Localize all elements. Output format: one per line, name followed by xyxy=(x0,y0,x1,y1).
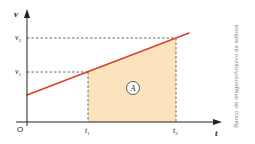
y-axis-arrow-icon xyxy=(24,9,30,18)
x-axis-label: t xyxy=(215,128,218,138)
tick-t1: t1 xyxy=(85,126,90,136)
y-axis-label: v xyxy=(14,9,19,19)
tick-v2: v2 xyxy=(15,33,22,43)
tick-v1: v1 xyxy=(15,67,22,77)
x-axis-arrow-icon xyxy=(213,119,222,125)
image-credit: Banco de imagens/Arquivo da editora xyxy=(233,24,239,128)
area-a-label: A xyxy=(130,84,136,93)
area-a-fill xyxy=(88,38,176,122)
tick-t2: t2 xyxy=(173,126,178,136)
origin-label: O xyxy=(17,125,23,134)
velocity-time-graph: v t O v2 v1 t1 t2 A xyxy=(0,0,255,144)
